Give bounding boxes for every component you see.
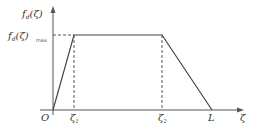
y-axis-arrow-icon	[51, 6, 56, 13]
zeta1-label: ζ1	[70, 112, 79, 124]
distribution-curve	[53, 35, 212, 110]
origin-label: O	[41, 112, 49, 123]
trapezoid-diagram: fd(ζ) fd(ζ) max O ζ1 ζ2 L ζ	[0, 0, 253, 131]
zeta2-label: ζ2	[158, 112, 167, 124]
max-suffix-label: max	[36, 37, 47, 43]
y-axis-label: fd(ζ)	[21, 8, 43, 20]
max-value-label: fd(ζ)	[7, 30, 29, 42]
L-label: L	[207, 112, 215, 123]
x-axis-label: ζ	[240, 112, 246, 123]
